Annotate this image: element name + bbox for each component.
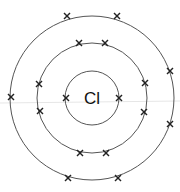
electron-cross-icon	[141, 109, 147, 115]
electron-cross-icon	[76, 40, 82, 46]
electron-cross-icon	[114, 13, 120, 19]
bohr-diagram: Cl	[0, 0, 180, 192]
electron-cross-icon	[63, 95, 69, 101]
electron-cross-icon	[77, 150, 83, 156]
electron-cross-icon	[102, 40, 108, 46]
electron-cross-icon	[37, 108, 43, 114]
electron-cross-icon	[64, 13, 70, 19]
element-symbol: Cl	[84, 89, 100, 108]
electron-cross-icon	[8, 94, 14, 100]
